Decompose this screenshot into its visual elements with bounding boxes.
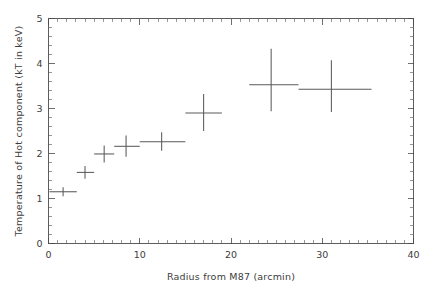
ticks-layer [49,19,414,244]
y-axis-title: Temperature of Hot component (kT in keV) [13,26,24,238]
y-axis-tick-label: 5 [36,13,42,24]
figure-container: 010203040012345Radius from M87 (arcmin)T… [0,0,439,293]
y-axis-tick-label: 4 [36,58,42,69]
plot-frame [49,19,414,244]
data-point [249,49,298,112]
data-point [299,60,372,112]
temperature-profile-chart: 010203040012345Radius from M87 (arcmin)T… [0,0,439,293]
data-point [140,132,186,150]
axes-layer [49,19,414,244]
data-point [49,187,76,196]
y-axis-tick-label: 2 [36,148,42,159]
y-axis-tick-label: 0 [36,238,42,249]
y-axis-tick-label: 3 [36,103,42,114]
y-axis-tick-label: 1 [36,193,42,204]
data-points-layer [49,49,371,197]
x-axis-tick-label: 30 [316,249,328,260]
data-point [185,94,222,131]
data-point [94,145,114,162]
data-point [77,166,94,179]
x-axis-tick-label: 20 [225,249,237,260]
x-axis-tick-label: 40 [407,249,419,260]
data-point [114,136,140,157]
x-axis-tick-label: 10 [134,249,146,260]
x-axis-title: Radius from M87 (arcmin) [167,271,295,282]
x-axis-tick-label: 0 [45,249,51,260]
